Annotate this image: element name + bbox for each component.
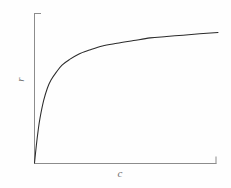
- x-axis-label: c: [110, 168, 130, 179]
- figure-container: r c: [0, 0, 231, 188]
- y-axis-label: r: [15, 70, 26, 90]
- plot-area: [0, 0, 231, 188]
